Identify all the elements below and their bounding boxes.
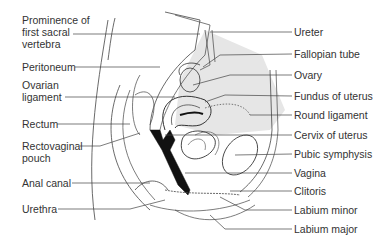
label-fundus: Fundus of uterus (294, 90, 373, 102)
label-prominence-3: vertebra (22, 38, 61, 50)
label-prominence-2: first sacral (22, 26, 70, 38)
label-urethra: Urethra (22, 203, 57, 215)
label-prominence-1: Prominence of (22, 14, 90, 26)
label-ovarian-ligament-2: ligament (22, 91, 62, 103)
pelvic-anatomy-diagram: Prominence of first sacral vertebra Peri… (0, 0, 388, 248)
label-ovarian-ligament-1: Ovarian (22, 79, 59, 91)
label-rectovaginal-2: pouch (22, 152, 51, 164)
label-fallopian-tube: Fallopian tube (294, 48, 360, 60)
label-rectum: Rectum (22, 118, 58, 130)
label-round-ligament: Round ligament (294, 109, 368, 121)
label-pubic-symphysis: Pubic symphysis (294, 148, 372, 160)
label-vagina: Vagina (294, 167, 326, 179)
label-labium-minor: Labium minor (294, 204, 358, 216)
label-anal-canal: Anal canal (22, 177, 71, 189)
label-clitoris: Clitoris (294, 185, 326, 197)
label-rectovaginal-1: Rectovaginal (22, 140, 83, 152)
label-labium-major: Labium major (294, 223, 358, 235)
label-peritoneum: Peritoneum (22, 61, 76, 73)
label-cervix: Cervix of uterus (294, 129, 368, 141)
label-ureter: Ureter (294, 26, 323, 38)
label-ovary: Ovary (294, 69, 322, 81)
